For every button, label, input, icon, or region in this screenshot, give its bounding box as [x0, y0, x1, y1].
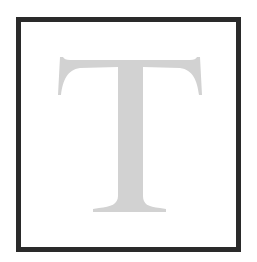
letter-t-glyph: T — [0, 0, 257, 262]
